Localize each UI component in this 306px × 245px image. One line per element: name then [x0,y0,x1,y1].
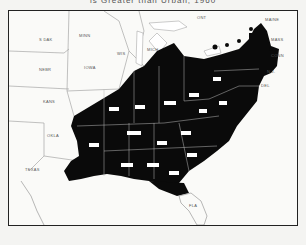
label-nebr: NEBR [39,67,51,72]
map-frame: S DAK MINN NEBR IOWA WIS MICH KANS OKLA … [8,10,298,226]
label-s-dak: S DAK [39,37,53,42]
label-texas: TEXAS [25,167,40,172]
label-mass: MASS [271,37,284,42]
label-conn: CONN [271,53,284,58]
label-mich: MICH [147,47,158,52]
label-okla: OKLA [47,133,59,138]
map-title: is Greater than Urban, 1960 [0,0,306,5]
us-map: S DAK MINN NEBR IOWA WIS MICH KANS OKLA … [9,11,297,225]
label-nj: N.J. [267,69,275,74]
label-del: DEL [261,83,270,88]
label-maine: MAINE [265,17,279,22]
label-iowa: IOWA [84,65,96,70]
label-kans: KANS [43,99,55,104]
label-ont: ONT [197,15,207,20]
label-minn: MINN [79,33,90,38]
label-wis: WIS [117,51,125,56]
label-fla: FLA [189,203,197,208]
